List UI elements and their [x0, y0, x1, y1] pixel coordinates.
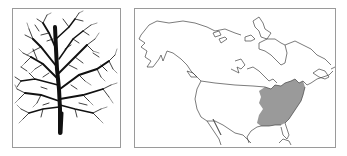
north-america-map: [135, 9, 335, 147]
range-map-panel: Range map of North America Eastern Unite…: [134, 8, 336, 148]
tree-silhouette-icon: [13, 9, 120, 147]
tree-silhouette-panel: Tree silhouette (leafless, winter form): [12, 8, 121, 148]
